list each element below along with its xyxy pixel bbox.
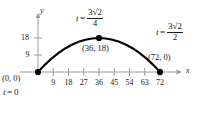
x-tick-label-63: 63	[139, 79, 151, 87]
point-marker-apex	[96, 35, 102, 41]
apex-time-numerator: 3√2	[87, 8, 103, 18]
apex-time-variable: t	[76, 14, 79, 23]
end-time-variable: t	[156, 28, 159, 37]
end-time-annotation: t = 3√2 2	[156, 22, 183, 42]
y-tick-label-18: 18	[18, 34, 32, 42]
x-tick-label-45: 45	[108, 79, 120, 87]
parametric-curve-figure: y x 18 9 9 18 27 36 45 54 63 72 (0, 0) t…	[0, 0, 207, 114]
origin-time-variable: t	[3, 88, 6, 97]
apex-time-fraction: 3√2 4	[87, 8, 103, 28]
x-tick-label-27: 27	[78, 79, 90, 87]
x-tick-label-36: 36	[93, 79, 105, 87]
point-marker-end	[157, 69, 163, 75]
apex-time-denominator: 4	[92, 19, 99, 29]
apex-time-annotation: t = 3√2 4	[76, 8, 103, 28]
y-tick-label-9: 9	[23, 51, 32, 59]
apex-time-equals: =	[80, 14, 85, 23]
x-tick-label-9: 9	[48, 79, 58, 87]
end-point-label: (72, 0)	[148, 53, 171, 62]
origin-time-value: 0	[14, 88, 19, 97]
apex-point-label: (36, 18)	[82, 44, 109, 53]
y-axis-label: y	[40, 7, 44, 15]
x-tick-label-18: 18	[63, 79, 75, 87]
end-time-fraction: 3√2 2	[167, 22, 183, 42]
origin-point-label: (0, 0)	[2, 74, 20, 83]
end-time-numerator: 3√2	[167, 22, 183, 32]
x-tick-label-72: 72	[154, 79, 166, 87]
origin-time-equals: =	[7, 88, 12, 97]
end-time-equals: =	[160, 28, 165, 37]
point-marker-origin	[35, 69, 41, 75]
x-axis-arrow-icon	[177, 70, 183, 75]
x-tick-label-54: 54	[124, 79, 136, 87]
x-axis-label: x	[186, 67, 190, 75]
end-time-denominator: 2	[172, 33, 179, 43]
origin-time-annotation: t = 0	[3, 88, 19, 97]
